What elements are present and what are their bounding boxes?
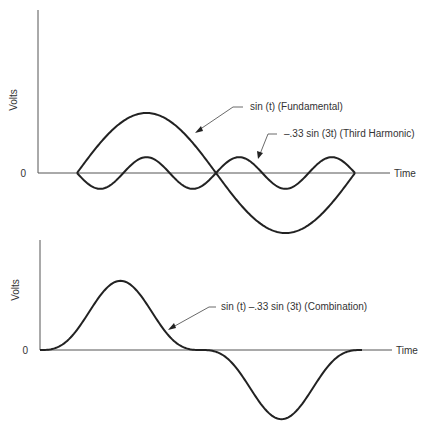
bottom-zero-label: 0 [22,345,28,356]
bottom-graph: Volts 0 Time sin (t) –.33 sin (3t) (Comb… [10,240,418,419]
fundamental-label: sin (t) (Fundamental) [250,101,343,112]
harmonic-label: –.33 sin (3t) (Third Harmonic) [284,128,415,139]
arrowhead-icon [168,323,176,330]
fundamental-leader-line [199,107,243,130]
combination-leader-line [173,307,216,327]
top-xlabel: Time [394,168,416,179]
combination-label: sin (t) –.33 sin (3t) (Combination) [221,301,367,312]
arrowhead-icon [195,126,203,133]
arrowhead-icon [257,151,263,159]
harmonic-leader-line [260,134,277,154]
harmonics-diagram: Volts 0 Time sin (t) (Fundamental) –.33 … [0,0,425,426]
bottom-xlabel: Time [396,345,418,356]
top-ylabel: Volts [8,89,19,111]
bottom-ylabel: Volts [10,279,21,301]
top-graph: Volts 0 Time sin (t) (Fundamental) –.33 … [8,10,416,233]
top-zero-label: 0 [20,168,26,179]
